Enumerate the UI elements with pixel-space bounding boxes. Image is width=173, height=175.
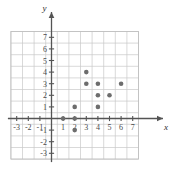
data-point bbox=[84, 70, 89, 75]
data-point bbox=[84, 81, 89, 86]
y-axis-tick-label: 7 bbox=[43, 33, 47, 42]
x-axis-tick-label: 6 bbox=[119, 123, 123, 132]
y-axis-tick-label: 5 bbox=[43, 57, 47, 66]
x-axis-tick-label: 4 bbox=[96, 123, 100, 132]
y-axis-tick-label: 2 bbox=[43, 91, 47, 100]
scatter-plot-svg: -3-2-11234567-3-2-11234567xy bbox=[0, 0, 173, 175]
data-point bbox=[72, 128, 77, 133]
y-axis-tick-label: 3 bbox=[43, 80, 47, 89]
data-point bbox=[107, 93, 112, 98]
x-axis-tick-label: -2 bbox=[25, 123, 32, 132]
data-point bbox=[72, 105, 77, 110]
y-axis-tick-label: -3 bbox=[40, 149, 47, 158]
coordinate-plane-figure: -3-2-11234567-3-2-11234567xy bbox=[0, 0, 173, 175]
y-axis-tick-label: 4 bbox=[43, 68, 47, 77]
data-point bbox=[96, 93, 101, 98]
x-axis-arrowhead bbox=[157, 116, 163, 122]
data-point bbox=[61, 116, 66, 121]
y-axis-label: y bbox=[42, 3, 47, 13]
data-point bbox=[96, 81, 101, 86]
x-axis-tick-label: 5 bbox=[108, 123, 112, 132]
y-axis-tick-label: 6 bbox=[43, 45, 47, 54]
data-point bbox=[72, 116, 77, 121]
y-axis-tick-label: -2 bbox=[40, 138, 47, 147]
data-point bbox=[96, 105, 101, 110]
y-axis-tick-label: 1 bbox=[43, 103, 47, 112]
x-axis-tick-label: 3 bbox=[84, 123, 88, 132]
x-axis-label: x bbox=[163, 122, 168, 132]
data-point bbox=[119, 81, 124, 86]
x-axis-tick-label: -3 bbox=[13, 123, 20, 132]
y-axis-arrowhead bbox=[49, 12, 55, 18]
y-axis-tick-label: -1 bbox=[40, 126, 47, 135]
grid-border bbox=[11, 32, 139, 160]
x-axis-tick-label: 1 bbox=[61, 123, 65, 132]
x-axis-tick-label: 7 bbox=[131, 123, 135, 132]
